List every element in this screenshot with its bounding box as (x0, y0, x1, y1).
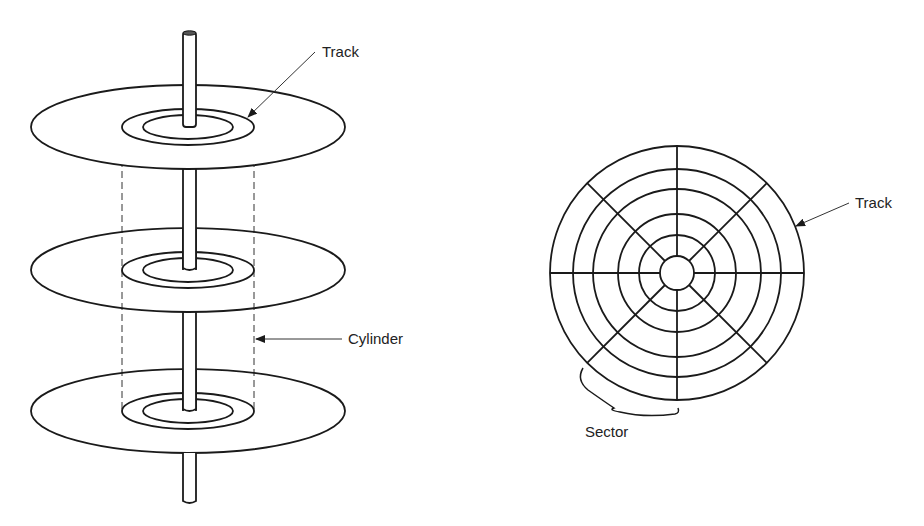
platter-stack (31, 31, 345, 503)
track-callout-right: Track (796, 194, 892, 226)
disk-geometry-diagram: Track Cylinder Track (0, 0, 924, 526)
cylinder-callout: Cylinder (256, 330, 403, 347)
spindle-hole (660, 256, 694, 290)
sector-label: Sector (585, 423, 628, 440)
cylinder-label: Cylinder (348, 330, 403, 347)
platter-bottom (31, 369, 345, 453)
spindle-bottom (183, 453, 196, 503)
track-label-left: Track (322, 43, 359, 60)
disk-surface (550, 146, 804, 400)
sector-dividers (550, 146, 804, 400)
spindle-top (183, 31, 196, 127)
platter-middle (31, 228, 345, 312)
sector-brace: Sector (580, 368, 678, 440)
track-label-right: Track (855, 194, 892, 211)
